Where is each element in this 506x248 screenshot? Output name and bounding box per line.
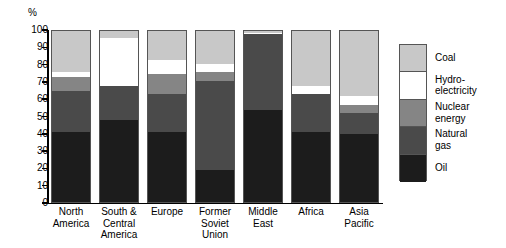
bar-segment-hydro [148,60,186,74]
bar-segment-oil [52,132,90,202]
bar-segment-oil [340,134,378,202]
legend-label-gas: Naturalgas [435,128,503,151]
legend-swatch-coal [400,45,426,72]
x-axis-label-line: Central [91,218,147,230]
x-axis-label-line: America [91,229,147,241]
y-tick: 40 [0,129,48,139]
y-tick: 80 [0,60,48,70]
legend-label-line: Coal [435,52,503,64]
y-tick: 10 [0,181,48,191]
legend-label-line: Oil [435,162,503,174]
legend-swatches [399,44,427,181]
bar-segment-coal [148,31,186,60]
bar-segment-hydro [100,38,138,86]
bar-north-america [51,30,91,203]
y-tick: 70 [0,77,48,87]
bar-segment-hydro [292,86,330,95]
bar-segment-coal [52,31,90,72]
bar-segment-hydro [196,64,234,73]
y-tick: 90 [0,42,48,52]
y-tick: 50 [0,112,48,122]
bar-segment-coal [292,31,330,86]
bar-segment-gas [244,34,282,109]
bar-segment-gas [292,94,330,132]
bar-europe [147,30,187,203]
legend-label-line: Hydro- [435,74,503,86]
y-tick: 20 [0,163,48,173]
legend-swatch-gas [400,127,426,154]
legend-label-hydro: Hydro-electricity [435,74,503,97]
x-axis-label-line: East [235,218,291,230]
bar-segment-oil [100,120,138,202]
bar-middle-east [243,30,283,203]
legend-label-oil: Oil [435,162,503,174]
bar-segment-oil [292,132,330,202]
stacked-bar-chart: % 0102030405060708090100 NorthAmericaSou… [0,0,506,248]
y-tick: 60 [0,94,48,104]
bar-segment-nuclear [196,72,234,81]
legend-label-nuclear: Nuclearenergy [435,101,503,124]
bar-former-soviet-union [195,30,235,203]
legend-swatch-oil [400,155,426,182]
bar-segment-gas [340,113,378,134]
bar-segment-hydro [244,33,282,35]
legend-label-line: gas [435,140,503,152]
bar-segment-nuclear [52,77,90,91]
legend-label-line: Natural [435,128,503,140]
bar-segment-coal [340,31,378,96]
x-axis-label-line: Asia [331,206,387,218]
x-axis-labels: NorthAmericaSouth &CentralAmericaEuropeF… [47,206,383,248]
plot-area [47,30,383,203]
bar-asia-pacific [339,30,379,203]
x-axis-label-line: Union [187,229,243,241]
bar-segment-coal [100,31,138,38]
legend-label-line: Nuclear [435,101,503,113]
y-tick: 0 [0,198,48,208]
bar-segment-coal [244,31,282,33]
x-axis-label: AsiaPacific [331,206,387,229]
bar-segment-nuclear [340,105,378,114]
bar-africa [291,30,331,203]
bar-segment-oil [244,110,282,202]
y-axis-unit-label: % [28,8,37,18]
y-tick: 30 [0,146,48,156]
bar-segment-oil [148,132,186,202]
bar-segment-gas [148,94,186,132]
bar-segment-hydro [340,96,378,105]
x-axis-label-line: Pacific [331,218,387,230]
bar-segment-nuclear [148,74,186,95]
bar-segment-hydro [52,72,90,77]
bar-segment-gas [196,81,234,170]
bar-segment-gas [100,86,138,120]
bar-segment-oil [196,170,234,202]
y-tick: 100 [0,25,48,35]
bar-segment-coal [196,31,234,63]
legend-label-line: energy [435,113,503,125]
legend-swatch-hydro [400,72,426,99]
legend-label-coal: Coal [435,52,503,64]
legend-swatch-nuclear [400,100,426,127]
legend-label-line: electricity [435,85,503,97]
bar-segment-gas [52,91,90,132]
bar-south-central-america [99,30,139,203]
